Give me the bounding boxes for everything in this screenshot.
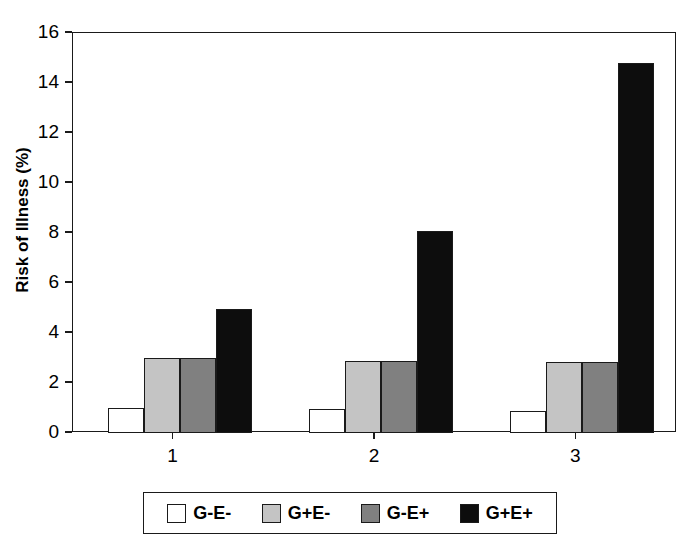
legend-swatch	[167, 504, 186, 523]
y-tick-label: 2	[48, 370, 59, 394]
bar	[381, 361, 417, 434]
chart-legend: G-E-G+E-G-E+G+E+	[143, 492, 557, 534]
y-tick-label: 8	[48, 220, 59, 244]
bar	[618, 63, 654, 433]
bar	[417, 231, 453, 434]
legend-swatch	[361, 504, 380, 523]
bar	[345, 361, 381, 434]
y-tick-mark	[65, 331, 72, 333]
y-tick-mark	[65, 181, 72, 183]
y-tick-label: 12	[38, 120, 59, 144]
x-tick-mark	[373, 432, 375, 439]
y-tick-label: 10	[38, 170, 59, 194]
y-tick-mark	[65, 281, 72, 283]
y-tick-mark	[65, 431, 72, 433]
x-tick-mark	[172, 432, 174, 439]
legend-entry: G-E-	[167, 503, 231, 523]
y-tick-label: 16	[38, 20, 59, 44]
bar	[510, 411, 546, 434]
bar	[546, 362, 582, 433]
legend-label: G+E+	[486, 503, 533, 523]
legend-swatch	[262, 504, 281, 523]
x-axis-group-label: 1	[113, 444, 233, 468]
bar-chart-figure: Risk of Illness (%) G-E-G+E-G-E+G+E+ 024…	[0, 0, 699, 552]
x-axis-group-label: 2	[314, 444, 434, 468]
y-tick-mark	[65, 231, 72, 233]
y-tick-mark	[65, 31, 72, 33]
bar	[216, 309, 252, 433]
legend-entry: G+E-	[262, 503, 331, 523]
y-tick-mark	[65, 131, 72, 133]
x-axis-group-label: 3	[515, 444, 635, 468]
x-tick-mark	[575, 432, 577, 439]
y-tick-label: 14	[38, 70, 59, 94]
y-tick-label: 6	[48, 270, 59, 294]
bar	[108, 408, 144, 433]
bar	[180, 358, 216, 433]
legend-swatch	[460, 504, 479, 523]
bar	[309, 409, 345, 433]
y-axis-title: Risk of Illness (%)	[6, 0, 40, 440]
legend-label: G-E-	[193, 503, 231, 523]
y-tick-label: 4	[48, 320, 59, 344]
legend-label: G+E-	[288, 503, 331, 523]
y-tick-mark	[65, 381, 72, 383]
bar	[582, 362, 618, 433]
y-tick-label: 0	[48, 420, 59, 444]
bar	[144, 358, 180, 433]
legend-entry: G-E+	[361, 503, 430, 523]
plot-area	[72, 32, 676, 432]
legend-entry: G+E+	[460, 503, 533, 523]
legend-label: G-E+	[387, 503, 430, 523]
y-tick-mark	[65, 81, 72, 83]
